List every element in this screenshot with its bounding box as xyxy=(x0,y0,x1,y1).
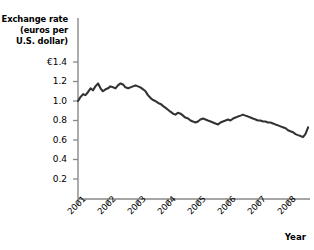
y-tick-label: 0.4 xyxy=(31,154,67,164)
y-tick-label: 1.2 xyxy=(31,76,67,86)
y-axis-tick-marks xyxy=(73,62,78,179)
exchange-rate-line xyxy=(78,83,308,137)
y-tick-label: €1.4 xyxy=(31,57,67,67)
x-axis-title: Year xyxy=(285,232,306,242)
y-tick-label: 0.6 xyxy=(31,135,67,145)
chart-plot-area xyxy=(0,0,314,250)
chart-page: Exchange rate (euros per U.S. dollar) €1… xyxy=(0,0,314,250)
y-tick-label: 0.8 xyxy=(31,115,67,125)
y-tick-label: 0.2 xyxy=(31,174,67,184)
y-tick-label: 1.0 xyxy=(31,96,67,106)
